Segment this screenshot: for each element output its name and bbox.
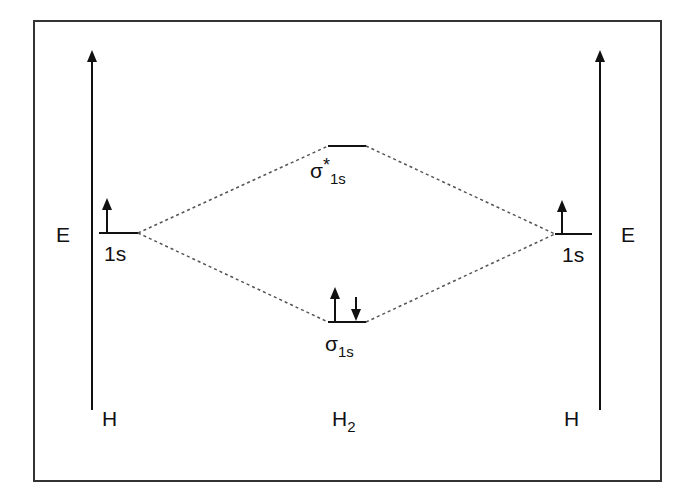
molecule-label: H2 <box>332 408 356 429</box>
sigma-star-label: σ*1s <box>310 160 346 181</box>
correlation-lines <box>138 146 555 322</box>
left-1s-label: 1s <box>104 243 126 264</box>
sigma-star-subscript: 1s <box>330 170 346 187</box>
energy-label-left: E <box>56 224 70 245</box>
molecule-label-main: H <box>332 407 347 430</box>
energy-axis-left-arrowhead-icon <box>87 50 97 62</box>
sigma-star-asterisk: * <box>323 155 330 175</box>
right-atom-label: H <box>564 408 579 429</box>
sigma-star-symbol: σ <box>310 159 323 182</box>
left-atom-label: H <box>102 408 117 429</box>
molecule-label-subscript: 2 <box>347 418 355 435</box>
right-1s-label: 1s <box>562 244 584 265</box>
energy-axis-right-arrowhead-icon <box>595 50 605 62</box>
sigma-label: σ1s <box>325 333 354 354</box>
sigma-symbol: σ <box>325 332 338 355</box>
energy-label-right: E <box>621 224 635 245</box>
sigma-subscript: 1s <box>338 343 354 360</box>
